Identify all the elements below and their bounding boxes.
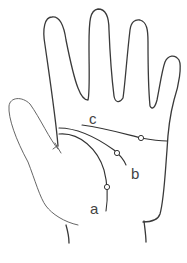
thumb-outline bbox=[9, 99, 78, 225]
head-line-b bbox=[59, 128, 126, 165]
marker-b bbox=[114, 150, 119, 155]
label-a: a bbox=[90, 200, 99, 217]
marker-a bbox=[104, 184, 109, 189]
hand-outline bbox=[44, 9, 180, 222]
label-b: b bbox=[131, 165, 139, 182]
life-line-a bbox=[59, 134, 107, 211]
label-c: c bbox=[89, 110, 97, 127]
wrist-right bbox=[144, 221, 146, 242]
marker-c bbox=[138, 135, 143, 140]
palm-diagram: a b c bbox=[0, 0, 187, 263]
wrist-left bbox=[66, 225, 69, 243]
